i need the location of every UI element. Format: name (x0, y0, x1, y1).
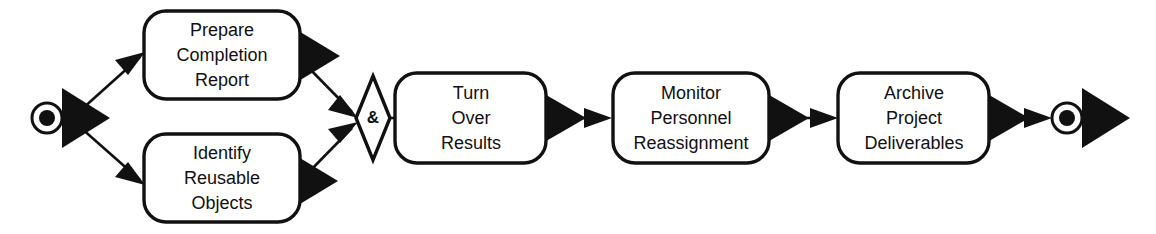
flow-turnover-to-monitor[interactable] (541, 92, 612, 144)
flow-monitor-to-archive[interactable] (764, 92, 838, 144)
activity-label-line: Project (886, 108, 942, 128)
activity-label-line: Over (451, 108, 490, 128)
activity-label-line: Turn (453, 83, 489, 103)
flow-source-marker-icon (541, 92, 586, 144)
activity-label-line: Completion (176, 45, 267, 65)
arrow-head-icon (584, 108, 612, 128)
flow-source-marker-icon (984, 92, 1029, 144)
end-node-marker-icon (1082, 88, 1130, 148)
end-node[interactable] (1052, 88, 1130, 148)
flow-prepare-to-gateway[interactable] (297, 30, 358, 118)
activity-label-line: Report (195, 70, 249, 90)
arrow-head-icon (328, 122, 358, 143)
arrow-head-icon (810, 108, 838, 128)
activity-label-line: Objects (191, 193, 252, 213)
start-node-marker-icon (62, 88, 110, 148)
activity-label-line: Reassignment (633, 133, 748, 153)
activity-label-line: Deliverables (864, 133, 963, 153)
gateway-label: & (367, 108, 379, 127)
arrow-head-icon (328, 95, 358, 118)
activity-label-line: Identify (193, 143, 251, 163)
end-node-dot-icon (1059, 110, 1075, 126)
flow-source-marker-icon (297, 30, 340, 82)
start-node-dot-icon (39, 110, 55, 126)
arrow-head-icon (1024, 108, 1052, 128)
activity-turn-over-results[interactable]: Turn Over Results (395, 73, 546, 163)
activity-label-line: Prepare (190, 20, 254, 40)
flow-archive-to-end[interactable] (984, 92, 1052, 144)
start-node[interactable] (32, 88, 110, 148)
activity-label-line: Archive (884, 83, 944, 103)
flow-identify-to-gateway[interactable] (295, 122, 358, 207)
arrow-head-icon (115, 162, 145, 185)
activity-diagram-canvas: Prepare Completion Report Identify Reusa… (0, 0, 1156, 234)
arrow-head-icon (115, 52, 145, 75)
activity-diagram-svg: Prepare Completion Report Identify Reusa… (0, 0, 1156, 234)
activity-monitor-personnel-reassignment[interactable]: Monitor Personnel Reassignment (613, 73, 769, 163)
activity-archive-project-deliverables[interactable]: Archive Project Deliverables (838, 73, 989, 163)
activity-identify-reusable-objects[interactable]: Identify Reusable Objects (144, 134, 300, 222)
activity-prepare-completion-report[interactable]: Prepare Completion Report (144, 11, 300, 99)
and-join-gateway[interactable]: & (356, 76, 390, 160)
activity-label-line: Monitor (661, 83, 721, 103)
flow-source-marker-icon (764, 92, 809, 144)
activity-label-line: Personnel (650, 108, 731, 128)
activity-label-line: Results (441, 133, 501, 153)
activity-label-line: Reusable (184, 168, 260, 188)
